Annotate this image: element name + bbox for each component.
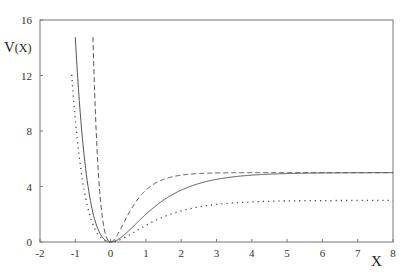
x-tick-label: 1 [143, 247, 149, 259]
x-tick-label: 7 [355, 247, 361, 259]
x-tick-label: 3 [214, 247, 220, 259]
x-tick-label: 8 [390, 247, 396, 259]
y-tick-label: 16 [21, 14, 33, 26]
y-axis-label: V(X) [4, 39, 32, 55]
y-tick-label: 0 [27, 236, 33, 248]
x-tick-label: 0 [108, 247, 114, 259]
y-tick-label: 4 [27, 181, 33, 193]
x-tick-label: 2 [178, 247, 184, 259]
x-tick-label: -1 [71, 247, 80, 259]
dotted-curve [72, 75, 393, 242]
y-tick-label: 12 [21, 70, 32, 82]
y-tick-label: 8 [27, 125, 33, 137]
x-tick-label: 6 [320, 247, 326, 259]
x-axis-label: X [371, 253, 382, 269]
x-tick-label: 5 [284, 247, 290, 259]
x-tick-label: 4 [249, 247, 255, 259]
curves [72, 37, 393, 242]
morse-potential-chart: -2-1012345678 0481216 V(X) X [0, 0, 409, 273]
solid-curve [75, 37, 393, 242]
x-tick-label: -2 [35, 247, 44, 259]
dashed-curve [93, 37, 393, 242]
